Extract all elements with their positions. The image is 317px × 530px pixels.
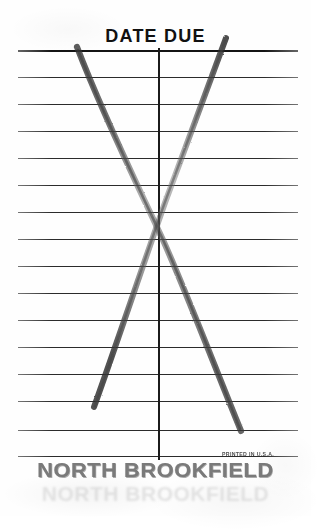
pencil-stroke-down-right [77, 47, 241, 431]
brand-name-smudge: NORTH BROOKFIELD [0, 482, 311, 506]
printed-in-usa-note: PRINTED IN U.S.A. [222, 451, 274, 457]
card-footer: NORTH BROOKFIELD NORTH BROOKFIELD [0, 458, 311, 492]
brand-name: NORTH BROOKFIELD [0, 458, 317, 482]
